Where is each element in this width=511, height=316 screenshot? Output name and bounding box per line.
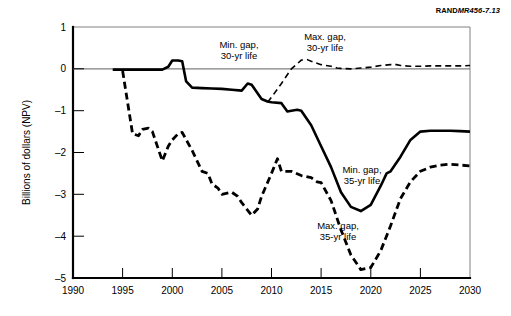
annotation-max-gap-35yr-line1: Max. gap, <box>317 220 359 231</box>
x-tick-label-1995: 1995 <box>111 285 134 296</box>
annotation-min-gap-35yr-line1: Min. gap, <box>342 164 381 175</box>
annotation-min-gap-30yr-line1: Min. gap, <box>219 39 258 50</box>
chart-frame <box>73 27 470 278</box>
chart-figure: RANDMR456-7.13 1 0 –1 –2 –3 –4 –5 <box>0 0 511 316</box>
annotation-max-gap-30yr-line1: Max. gap, <box>304 31 346 42</box>
data-series-group <box>113 60 470 270</box>
y-tick-label-neg1: –1 <box>55 105 67 116</box>
x-axis-tick-labels: 1990 1995 2000 2005 2010 2015 2020 2025 … <box>62 285 482 296</box>
annotation-max-gap-30yr-line2: 30-yr life <box>307 42 343 53</box>
y-tick-label-neg3: –3 <box>55 189 67 200</box>
x-tick-label-2020: 2020 <box>360 285 383 296</box>
annotation-max-gap-35yr-line2: 35-yr life <box>320 231 356 242</box>
x-tick-label-2015: 2015 <box>310 285 333 296</box>
x-tick-label-2005: 2005 <box>211 285 234 296</box>
series-max-gap-35yr-line <box>123 71 470 270</box>
annotation-min-gap-30yr-line2: 30-yr life <box>221 50 257 61</box>
y-tick-label-neg5: –5 <box>55 273 67 284</box>
y-axis-tick-labels: 1 0 –1 –2 –3 –4 –5 <box>55 22 67 284</box>
x-tick-label-2010: 2010 <box>260 285 283 296</box>
x-tick-label-2025: 2025 <box>409 285 432 296</box>
series-min-gap-line <box>113 60 470 211</box>
series-max-gap-30yr-line <box>268 60 470 103</box>
line-chart-plot: 1 0 –1 –2 –3 –4 –5 Billions of dollars (… <box>0 0 511 316</box>
y-tick-label-1: 1 <box>60 22 66 33</box>
rand-reference-number: MR456-7.13 <box>458 6 500 15</box>
annotation-min-gap-35yr-line2: 35-yr life <box>344 175 380 186</box>
y-axis-ticks <box>73 69 84 236</box>
y-tick-label-neg4: –4 <box>55 231 67 242</box>
x-tick-label-2030: 2030 <box>459 285 482 296</box>
y-axis-title: Billions of dollars (NPV) <box>21 100 32 205</box>
x-axis-ticks <box>123 268 421 278</box>
y-tick-label-0: 0 <box>60 63 66 74</box>
x-tick-label-1990: 1990 <box>62 285 85 296</box>
x-tick-label-2000: 2000 <box>161 285 184 296</box>
y-tick-label-neg2: –2 <box>55 147 67 158</box>
rand-brand-label: RAND <box>436 6 458 15</box>
rand-document-reference: RANDMR456-7.13 <box>436 7 500 15</box>
